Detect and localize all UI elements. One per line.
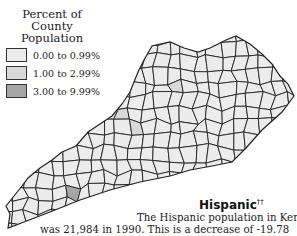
section-title: Hispanic††: [199, 198, 264, 212]
county: [159, 185, 172, 201]
county: [23, 131, 40, 151]
legend-label: 0.00 to 0.99%: [33, 50, 100, 61]
legend-swatch-low: [6, 48, 27, 62]
county: [284, 170, 297, 189]
county: [10, 146, 26, 162]
county: [23, 107, 41, 120]
county: [104, 53, 118, 68]
county: [296, 200, 297, 212]
county: [0, 146, 14, 161]
legend-item: 1.00 to 2.99%: [6, 66, 104, 80]
county: [270, 33, 284, 46]
county: [206, 184, 220, 198]
county: [118, 53, 132, 68]
county: [101, 197, 114, 214]
county: [157, 200, 171, 213]
legend-title-line2: County Population: [0, 20, 104, 44]
county: [53, 105, 68, 123]
county: [116, 67, 132, 85]
county: [271, 67, 283, 81]
county: [102, 93, 118, 110]
county: [247, 158, 261, 175]
county: [257, 174, 275, 188]
county: [62, 118, 81, 134]
county: [271, 133, 289, 150]
county: [257, 28, 275, 46]
county: [284, 31, 297, 45]
county: [207, 172, 224, 188]
county: [140, 200, 159, 210]
county: [140, 184, 160, 202]
county: [10, 131, 27, 150]
county: [37, 131, 55, 147]
county: [181, 171, 197, 184]
county: [283, 54, 297, 71]
legend-item: 3.00 to 9.99%: [6, 84, 104, 98]
county: [38, 144, 54, 161]
county: [145, 27, 158, 46]
county: [23, 118, 41, 133]
county: [90, 107, 105, 122]
county: [0, 119, 13, 132]
section-title-text: Hispanic: [199, 198, 257, 212]
county: [296, 97, 297, 108]
county: [194, 72, 208, 84]
county: [127, 184, 144, 202]
county: [114, 42, 130, 55]
county: [205, 55, 223, 72]
county: [114, 31, 133, 44]
body-line-2: was 21,984 in 1990. This is a decrease o…: [0, 224, 297, 236]
county: [271, 199, 289, 209]
county: [271, 118, 289, 137]
county: [127, 148, 142, 160]
county: [288, 200, 297, 212]
county: [10, 109, 24, 120]
county: [0, 131, 12, 147]
legend: Percent of County Population 0.00 to 0.9…: [0, 8, 104, 98]
county: [234, 150, 247, 163]
county: [52, 133, 63, 148]
county: [140, 147, 153, 160]
county: [75, 107, 91, 122]
county: [192, 171, 209, 189]
county: [274, 162, 287, 175]
county: [23, 144, 40, 163]
county: [219, 28, 237, 43]
county: [64, 105, 81, 121]
county: [14, 161, 26, 173]
county: [271, 185, 289, 199]
county: [129, 45, 146, 55]
county: [0, 186, 13, 202]
county: [104, 80, 118, 94]
county: [235, 93, 246, 106]
county: [273, 149, 288, 163]
county: [167, 28, 181, 42]
county: [234, 106, 248, 118]
county: [260, 145, 273, 163]
county: [10, 119, 26, 134]
county: [104, 133, 114, 146]
county: [114, 197, 132, 211]
county: [258, 108, 272, 118]
legend-title: Percent of County Population: [0, 8, 104, 44]
county: [0, 105, 15, 119]
county: [103, 42, 118, 57]
county: [104, 66, 118, 85]
county: [153, 67, 169, 86]
county: [127, 199, 144, 211]
county: [0, 172, 16, 186]
county: [257, 163, 275, 176]
legend-swatch-mid: [6, 66, 27, 80]
county: [296, 79, 297, 98]
county: [129, 27, 146, 45]
county: [37, 118, 55, 137]
county: [287, 105, 297, 122]
legend-label: 3.00 to 9.99%: [33, 86, 100, 97]
county: [153, 147, 170, 162]
county: [52, 161, 64, 175]
county: [245, 145, 261, 163]
county: [286, 147, 297, 163]
county: [36, 172, 54, 189]
county: [222, 159, 236, 175]
county: [157, 172, 171, 188]
